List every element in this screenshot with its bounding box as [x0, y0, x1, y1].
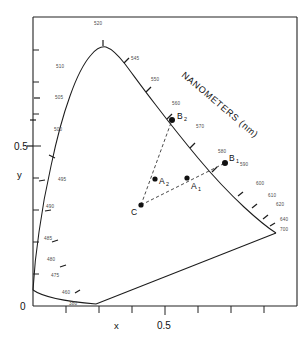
wl-tick-475 — [60, 265, 66, 267]
wl-label-500: 500 — [54, 127, 63, 132]
chart-canvas: 520 510 505 500 495 490 485 480 475 460 … — [0, 0, 308, 339]
wl-tick-550 — [146, 87, 151, 92]
line-of-purples — [96, 233, 276, 304]
point-a1-dot — [184, 175, 189, 180]
wl-label-560: 560 — [172, 101, 181, 106]
y-axis-ticks — [33, 50, 41, 274]
wl-label-610: 610 — [268, 193, 277, 198]
chromaticity-diagram-figure: 520 510 505 500 495 490 485 480 475 460 … — [0, 0, 308, 339]
x-axis-label: x — [114, 320, 119, 331]
wl-tick-610 — [263, 215, 268, 219]
point-label-a1: A — [191, 181, 197, 191]
wl-label-640: 640 — [280, 217, 289, 222]
wl-tick-480 — [52, 240, 58, 242]
wl-label-550: 550 — [151, 77, 160, 82]
wl-label-490: 490 — [46, 204, 55, 209]
wl-tick-460 — [75, 290, 80, 293]
wl-label-520: 520 — [94, 21, 103, 26]
data-points — [138, 117, 228, 208]
wl-tick-545 — [124, 58, 129, 63]
axes-group — [33, 17, 297, 306]
connector-lines — [141, 120, 225, 205]
wl-label-380: 380 — [69, 301, 78, 306]
wl-tick-510 — [49, 155, 55, 158]
x-axis-ticks — [66, 306, 264, 315]
wl-tick-490 — [39, 180, 45, 181]
wl-label-460: 460 — [62, 290, 71, 295]
wl-label-700: 700 — [280, 227, 289, 232]
point-sub-a2: 2 — [166, 181, 169, 187]
point-sub-b2: 2 — [184, 116, 187, 122]
wl-label-505: 505 — [55, 95, 64, 100]
wavelength-labels: 520 510 505 500 495 490 485 480 475 460 … — [44, 21, 289, 306]
point-sub-b1: 1 — [236, 158, 239, 164]
wl-label-570: 570 — [196, 124, 205, 129]
wl-tick-485 — [45, 210, 51, 211]
point-label-c: C — [131, 207, 137, 217]
wl-label-510: 510 — [56, 64, 65, 69]
wl-tick-620 — [270, 223, 275, 226]
point-label-b2: B — [177, 111, 183, 121]
nanometers-annotation: NANOMETERS (nm) — [180, 70, 261, 140]
y-tick-label-zero: 0 — [20, 301, 26, 312]
spectral-locus-curve — [33, 47, 276, 290]
point-label-b1: B — [229, 153, 235, 163]
y-tick-label-half: 0.5 — [14, 141, 28, 152]
point-sub-a1: 1 — [198, 186, 201, 192]
point-b1-dot — [222, 160, 228, 166]
wl-label-600: 600 — [256, 181, 265, 186]
y-axis-label: y — [17, 169, 22, 180]
wl-tick-570 — [190, 143, 195, 148]
wl-label-590: 590 — [240, 162, 249, 167]
point-c-dot — [138, 202, 143, 207]
connector-c-to-b1 — [141, 163, 225, 205]
point-a2-dot — [152, 176, 157, 181]
x-tick-label-half: 0.5 — [157, 320, 171, 331]
wl-tick-590 — [238, 192, 243, 196]
wl-label-485: 485 — [44, 236, 53, 241]
wl-label-620: 620 — [276, 202, 285, 207]
wl-label-475: 475 — [51, 273, 60, 278]
point-label-a2: A — [159, 176, 165, 186]
point-b2-dot — [169, 117, 175, 123]
wl-label-580: 580 — [218, 149, 227, 154]
wl-label-495: 495 — [58, 177, 67, 182]
axis-text-group: 0.5 0 y 0.5 x — [14, 141, 171, 331]
wl-label-545: 545 — [131, 56, 140, 61]
wl-tick-600 — [252, 204, 257, 208]
wl-label-480: 480 — [47, 257, 56, 262]
